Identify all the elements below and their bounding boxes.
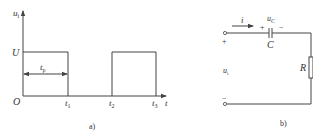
resistor: [309, 57, 313, 78]
figure-canvas: ui U O tp t1 t2 t3 t a) i + uC − C R ui: [0, 0, 313, 136]
input-voltage-label: ui: [223, 66, 229, 76]
rc-circuit: i + uC − C R ui + − b): [222, 14, 313, 128]
terminal-plus-sign: +: [222, 37, 227, 46]
capacitor-voltage-label: uC: [267, 14, 276, 24]
tick-label-t3: t3: [152, 98, 158, 109]
y-axis-label: ui: [13, 8, 20, 19]
caption-a: a): [89, 122, 96, 131]
pulse-2: [112, 52, 156, 96]
capacitor-plus-sign: +: [260, 23, 265, 32]
caption-b: b): [280, 119, 287, 128]
waveform-plot: ui U O tp t1 t2 t3 t a): [12, 8, 168, 131]
wire-bottom: [227, 78, 311, 104]
capacitor-minus-sign: −: [279, 23, 284, 32]
origin-label: O: [13, 96, 20, 107]
capacitor-label: C: [267, 39, 274, 50]
pulse-width-label: tp: [40, 62, 46, 73]
x-axis-label: t: [165, 98, 168, 108]
terminal-minus-sign: −: [222, 94, 227, 103]
level-label-U: U: [12, 47, 20, 58]
tick-label-t1: t1: [65, 98, 71, 109]
tick-label-t2: t2: [109, 98, 115, 109]
current-label: i: [241, 15, 244, 25]
resistor-label: R: [299, 62, 306, 73]
wire-top-right: [272, 33, 311, 57]
input-terminal-top: [223, 31, 226, 34]
